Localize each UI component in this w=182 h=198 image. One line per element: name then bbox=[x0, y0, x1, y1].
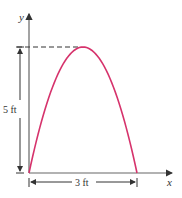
x-axis-label: x bbox=[166, 176, 172, 188]
parabola-curve bbox=[29, 47, 137, 173]
width-label: 3 ft bbox=[75, 177, 89, 188]
y-axis-label: y bbox=[18, 11, 24, 23]
parabola-diagram: y x 5 ft 3 ft bbox=[0, 0, 182, 198]
height-label: 5 ft bbox=[3, 104, 17, 115]
